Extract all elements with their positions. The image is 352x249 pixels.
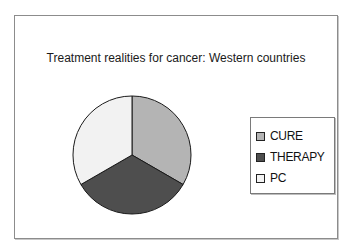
legend-item-cure: CURE (256, 127, 303, 145)
chart-frame: Treatment realities for cancer: Western … (14, 15, 338, 239)
pie-slices (73, 96, 191, 214)
legend-label: CURE (270, 129, 303, 143)
legend-swatch-icon (256, 132, 265, 141)
legend-label: PC (270, 171, 286, 185)
legend-label: THERAPY (270, 150, 325, 164)
legend-item-therapy: THERAPY (256, 148, 325, 166)
legend: CURE THERAPY PC (250, 117, 335, 194)
legend-swatch-icon (256, 174, 265, 183)
pie-chart (72, 94, 192, 216)
chart-title: Treatment realities for cancer: Western … (15, 51, 337, 65)
legend-swatch-icon (256, 153, 265, 162)
legend-item-pc: PC (256, 169, 286, 187)
